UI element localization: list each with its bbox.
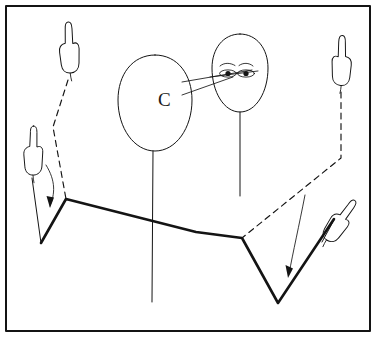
head-label-c: C bbox=[158, 89, 171, 110]
curved-arrow-left bbox=[46, 165, 54, 208]
hand-top-right-icon bbox=[329, 35, 353, 94]
sketch-svg: C bbox=[0, 0, 376, 337]
sight-line-lower bbox=[182, 77, 233, 95]
folded-plane bbox=[41, 199, 334, 303]
head-right-face bbox=[212, 34, 268, 196]
eyebrow-right-icon bbox=[239, 63, 253, 66]
hand-mid-left-icon bbox=[22, 126, 44, 184]
dashed-connector-left bbox=[53, 80, 68, 199]
hand-top-left-icon bbox=[57, 21, 83, 82]
dashed-connector-right bbox=[242, 92, 341, 238]
head-left-blank: C bbox=[118, 55, 192, 302]
head-left-stem bbox=[152, 151, 153, 302]
outer-border bbox=[6, 6, 370, 331]
hand-bottom-right-icon bbox=[316, 195, 362, 253]
eyebrow-left-icon bbox=[220, 63, 235, 66]
figure-canvas: C bbox=[0, 0, 376, 337]
hand-stem-mid-left bbox=[32, 178, 41, 243]
